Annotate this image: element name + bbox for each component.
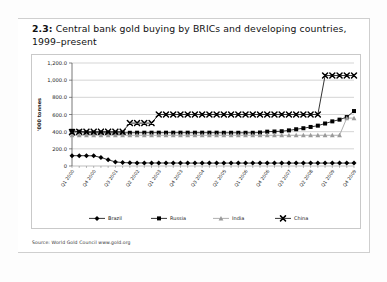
marker-diamond [127,160,132,165]
marker-diamond [120,160,125,165]
x-tick-label: Q3 2004 [190,169,205,188]
marker-diamond [70,153,75,158]
marker-diamond [95,216,100,221]
marker-diamond [171,160,176,165]
marker-square [338,118,342,122]
marker-square [287,128,291,132]
marker-diamond [301,161,306,166]
marker-diamond [258,161,263,166]
series-brazil [70,153,357,165]
marker-diamond [229,161,234,166]
marker-diamond [156,160,161,165]
marker-square [316,124,320,128]
marker-diamond [178,161,183,166]
marker-diamond [352,161,357,166]
y-tick-label: 800.0 [52,94,67,100]
y-tick-label: 600.0 [52,112,67,118]
marker-square [352,109,356,113]
series-line [72,76,354,133]
x-tick-label: Q1 2003 [147,169,162,188]
legend-label: China [294,215,308,221]
x-tick-label: Q3 2007 [277,169,292,188]
marker-diamond [164,160,169,165]
marker-diamond [84,153,89,158]
x-tick-label: Q4 2000 [82,169,97,188]
y-tick-label: 200.0 [52,146,67,152]
marker-diamond [91,153,96,158]
series-china [70,73,357,135]
x-tick-label: Q1 2009 [320,169,335,188]
x-tick-label: Q4 2003 [168,169,183,188]
marker-diamond [185,161,190,166]
marker-diamond [135,160,140,165]
marker-diamond [243,161,248,166]
x-tick-label: Q3 2001 [103,169,118,188]
marker-diamond [279,161,284,166]
x-tick-label: Q2 2002 [125,169,140,188]
marker-diamond [323,161,328,166]
marker-diamond [286,161,291,166]
legend-label: Brazil [108,215,122,221]
y-axis-title: '000 tonnes [36,98,42,131]
x-tick-label: Q4 2009 [342,169,357,188]
figure-number: 2.3: [32,23,53,34]
marker-diamond [149,160,154,165]
marker-diamond [200,161,205,166]
marker-diamond [77,153,82,158]
page-title: 2.3: Central bank gold buying by BRICs a… [32,22,352,48]
gold-buying-line-chart: 0200.0400.0600.0800.01,000.01,200.0'000 … [32,55,360,228]
marker-diamond [221,161,226,166]
chart-panel: 0200.0400.0600.0800.01,000.01,200.0'000 … [31,54,361,229]
marker-diamond [214,161,219,166]
y-tick-label: 0 [64,163,67,169]
marker-square [301,126,305,130]
chart-legend: BrazilRussiaIndiaChina [89,215,308,221]
y-tick-label: 400.0 [52,129,67,135]
marker-square [323,122,327,126]
figure-page: 2.3: Central bank gold buying by BRICs a… [0,0,387,282]
marker-square [309,125,313,129]
marker-diamond [265,161,270,166]
marker-diamond [250,161,255,166]
figure-title-text: Central bank gold buying by BRICs and de… [32,23,347,47]
marker-square [294,127,298,131]
marker-diamond [106,157,111,162]
marker-diamond [294,161,299,166]
legend-label: India [232,215,244,221]
marker-diamond [142,160,147,165]
x-tick-label: Q4 2006 [255,169,270,188]
marker-diamond [315,161,320,166]
y-tick-label: 1,200.0 [47,60,67,66]
marker-diamond [192,161,197,166]
marker-diamond [113,159,118,164]
legend-label: Russia [170,215,186,221]
x-tick-label: Q1 2006 [233,169,248,188]
marker-square [280,129,284,133]
marker-diamond [207,161,212,166]
marker-diamond [308,161,313,166]
x-tick-label: Q2 2008 [299,169,314,188]
marker-square [330,119,334,123]
marker-diamond [272,161,277,166]
marker-diamond [344,161,349,166]
marker-diamond [98,155,103,160]
x-tick-label: Q1 2000 [60,169,75,188]
marker-diamond [330,161,335,166]
source-note: Source: World Gold Council www.gold.org [32,240,131,245]
y-tick-label: 1,000.0 [47,77,67,83]
x-tick-label: Q2 2005 [212,169,227,188]
marker-square [157,216,161,220]
marker-diamond [236,161,241,166]
marker-diamond [337,161,342,166]
